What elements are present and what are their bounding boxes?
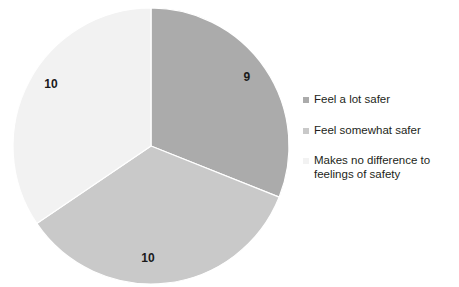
pie-svg — [0, 0, 300, 287]
pie-chart-figure: 91010 Feel a lot safer Feel somewhat saf… — [0, 0, 459, 287]
pie-slice-value-label: 10 — [44, 77, 58, 91]
pie-plot-area: 91010 — [0, 0, 300, 287]
legend-item-feel-a-lot-safer[interactable]: Feel a lot safer — [303, 93, 457, 107]
legend-item-label: Makes no difference to feelings of safet… — [314, 154, 430, 181]
legend-item-label: Feel somewhat safer — [314, 124, 421, 138]
legend-item-feel-somewhat-safer[interactable]: Feel somewhat safer — [303, 124, 457, 138]
pie-slice-value-label: 9 — [244, 70, 251, 84]
legend-item-makes-no-difference[interactable]: Makes no difference to feelings of safet… — [303, 154, 457, 181]
chart-legend: Feel a lot safer Feel somewhat safer Mak… — [303, 93, 457, 198]
legend-swatch-icon — [303, 128, 309, 134]
pie-slice-value-label: 10 — [141, 251, 155, 265]
legend-swatch-icon — [303, 158, 309, 164]
legend-item-label: Feel a lot safer — [314, 93, 390, 107]
pie-slices — [13, 8, 289, 284]
legend-swatch-icon — [303, 97, 309, 103]
